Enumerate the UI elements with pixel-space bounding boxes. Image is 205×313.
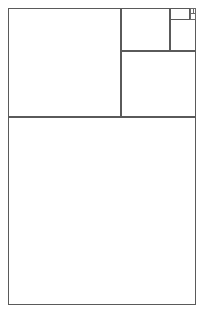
square-1-bottom — [8, 117, 196, 305]
square-4-top — [121, 8, 170, 51]
square-2-left — [8, 8, 121, 117]
square-3-right — [121, 51, 196, 117]
square-9-nano — [193, 8, 196, 14]
square-6-upper — [170, 8, 190, 20]
golden-ratio-diagram — [0, 0, 205, 313]
